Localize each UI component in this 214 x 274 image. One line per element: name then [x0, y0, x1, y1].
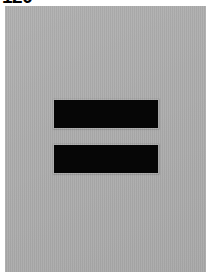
- scan-texture-overlay: [5, 6, 206, 272]
- equals-lower-bar: [54, 145, 158, 173]
- figure-number-label: 120: [2, 0, 32, 6]
- caption-clip: 120: [0, 0, 80, 6]
- figure-root: 120: [0, 0, 214, 274]
- equals-upper-bar: [54, 100, 158, 128]
- scan-shading-overlay: [5, 6, 206, 272]
- gray-image-panel: [5, 6, 206, 272]
